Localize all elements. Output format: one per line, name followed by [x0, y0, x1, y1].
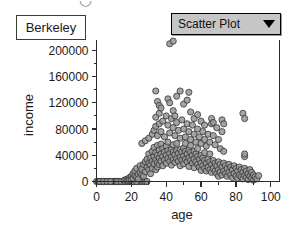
data-point [194, 112, 200, 118]
data-point [158, 105, 164, 111]
data-point [188, 109, 194, 115]
data-point [167, 100, 173, 106]
x-tick-label: 100 [261, 190, 281, 204]
data-point [189, 122, 195, 128]
x-tick-label: 80 [229, 190, 243, 204]
y-tick-label: 40000 [55, 149, 89, 163]
scatter-plot-panel: ◡ Berkeley Scatter Plot 0400008000012000… [0, 0, 298, 240]
data-point [170, 38, 176, 44]
y-tick-label: 0 [82, 175, 89, 189]
data-point [210, 132, 216, 138]
data-point [177, 88, 183, 94]
data-point [221, 121, 227, 127]
data-point [219, 129, 225, 135]
data-point [186, 89, 192, 95]
y-tick-label: 160000 [48, 70, 88, 84]
chart-canvas: 0400008000012000016000020000002040608010… [0, 0, 298, 240]
data-point [255, 173, 261, 179]
data-point [153, 88, 159, 94]
x-axis-title: age [171, 207, 193, 222]
data-point [161, 134, 167, 140]
x-tick-label: 60 [194, 190, 208, 204]
data-point [184, 97, 190, 103]
data-point [172, 113, 178, 119]
x-tick-label: 0 [93, 190, 100, 204]
data-point [221, 148, 227, 154]
scatter-chart: 0400008000012000016000020000002040608010… [0, 0, 298, 240]
y-tick-label: 200000 [48, 44, 88, 58]
data-point [215, 136, 221, 142]
scatter-points [93, 38, 261, 185]
y-tick-label: 120000 [48, 96, 88, 110]
data-point [242, 151, 248, 157]
data-point [207, 151, 213, 157]
data-point [179, 117, 185, 123]
data-point [210, 119, 216, 125]
x-tick-label: 20 [125, 190, 139, 204]
y-axis-title: income [21, 94, 36, 136]
y-tick-label: 80000 [55, 123, 89, 137]
data-point [201, 122, 207, 128]
x-tick-label: 40 [160, 190, 174, 204]
data-point [242, 115, 248, 121]
